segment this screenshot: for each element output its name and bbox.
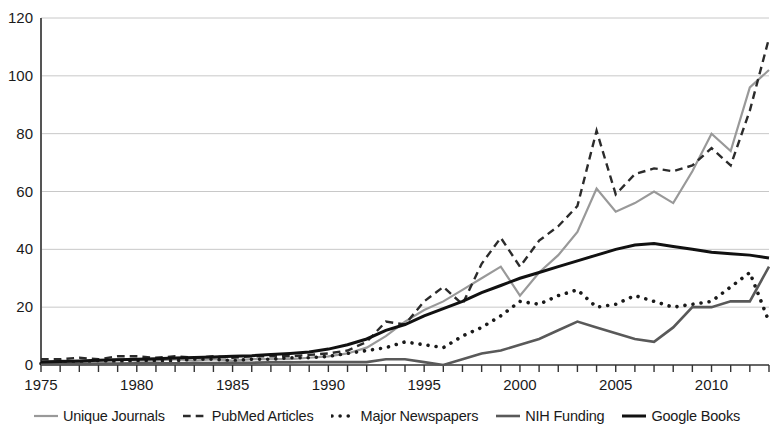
legend-label: Unique Journals xyxy=(63,409,165,424)
legend-item-google-books[interactable]: Google Books xyxy=(621,409,740,424)
y-tick-label: 0 xyxy=(25,356,33,373)
series-line-major-newspapers xyxy=(41,272,769,363)
legend-item-unique-journals[interactable]: Unique Journals xyxy=(33,409,165,424)
line-dashed-icon xyxy=(182,410,208,422)
legend-item-pubmed-articles[interactable]: PubMed Articles xyxy=(182,409,314,424)
x-tick-label: 1975 xyxy=(24,376,57,393)
x-tick-label: 1985 xyxy=(216,376,249,393)
line-solid-black-icon xyxy=(621,410,647,422)
data-series-layer xyxy=(41,38,769,365)
series-line-pubmed-articles xyxy=(41,38,769,359)
series-line-unique-journals xyxy=(41,70,769,362)
legend-item-major-newspapers[interactable]: Major Newspapers xyxy=(331,409,479,424)
chart-legend: Unique JournalsPubMed ArticlesMajor News… xyxy=(0,401,773,431)
series-line-nih-funding xyxy=(41,267,769,365)
legend-label: Major Newspapers xyxy=(361,409,479,424)
y-tick-label: 40 xyxy=(16,240,33,257)
legend-label: Google Books xyxy=(651,409,740,424)
x-tick-label: 2000 xyxy=(503,376,536,393)
y-tick-label: 80 xyxy=(16,125,33,142)
x-axis-ticks xyxy=(41,365,769,372)
y-tick-label: 120 xyxy=(8,9,33,26)
x-tick-label: 2005 xyxy=(599,376,632,393)
line-chart: 120100806040200 197519801985199019952000… xyxy=(0,0,773,431)
legend-label: PubMed Articles xyxy=(212,409,314,424)
y-tick-label: 60 xyxy=(16,183,33,200)
x-tick-label: 1995 xyxy=(407,376,440,393)
x-axis-tick-labels: 19751980198519901995200020052010 xyxy=(24,376,728,393)
line-dotted-icon xyxy=(331,410,357,422)
legend-item-nih-funding[interactable]: NIH Funding xyxy=(495,409,604,424)
legend-label: NIH Funding xyxy=(525,409,604,424)
y-tick-label: 20 xyxy=(16,298,33,315)
gridlines xyxy=(41,18,769,307)
line-solid-gray-icon xyxy=(495,410,521,422)
y-axis-tick-labels: 120100806040200 xyxy=(8,9,33,373)
chart-plot-area: 120100806040200 197519801985199019952000… xyxy=(0,0,773,431)
x-tick-label: 1990 xyxy=(312,376,345,393)
y-tick-label: 100 xyxy=(8,67,33,84)
line-solid-light-icon xyxy=(33,410,59,422)
x-tick-label: 2010 xyxy=(695,376,728,393)
x-tick-label: 1980 xyxy=(120,376,153,393)
